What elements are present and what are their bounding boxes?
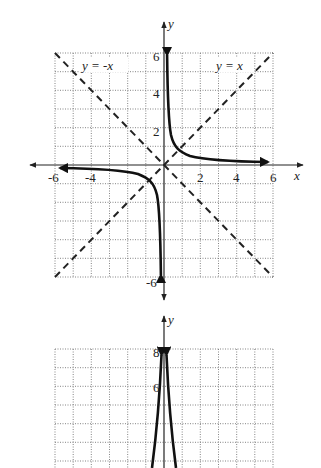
x-tick--6: -6 [48,170,59,185]
y-axis-label-2: y [166,312,174,327]
y-tick-2: 2 [153,124,160,139]
y-axis-label-1: y [166,16,174,31]
y-tick-4: 4 [153,86,160,101]
label-y-eq-neg-x: y = -x [80,58,113,73]
label-y-eq-x: y = x [214,58,243,73]
curve-left-branch-2 [152,355,162,468]
x-axis-label-1: x [293,168,300,183]
figure: y x y = -x y = x -6 -4 2 4 6 6 4 2 -6 [0,0,321,468]
y-tick-6: 6 [153,49,160,64]
graph-2: y 8 6 [55,312,273,468]
x-tick--4: -4 [85,170,96,185]
x-tick-6: 6 [270,170,277,185]
curve-right-branch-2 [167,355,177,468]
y-tick-6-g2: 6 [153,380,160,395]
x-tick-2: 2 [197,170,204,185]
x-tick-4: 4 [233,170,240,185]
graph-1: y x y = -x y = x -6 -4 2 4 6 6 4 2 -6 [30,16,303,300]
y-tick-8: 8 [153,345,160,360]
y-tick--6: -6 [146,275,157,290]
labels-1: y x y = -x y = x -6 -4 2 4 6 6 4 2 -6 [48,16,300,290]
